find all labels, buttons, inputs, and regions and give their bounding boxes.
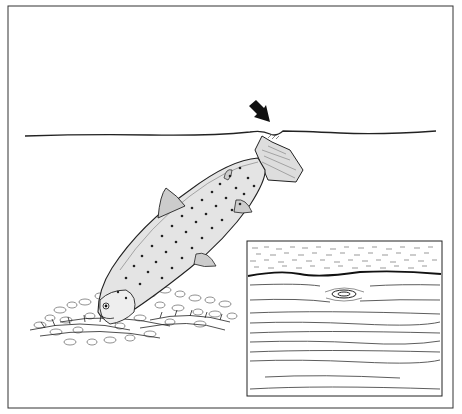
illustration: [0, 0, 462, 414]
inset-surface-rise: [247, 241, 442, 396]
